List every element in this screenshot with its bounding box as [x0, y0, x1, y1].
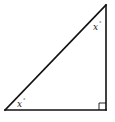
top-angle-variable: x: [93, 22, 98, 32]
bottom-left-angle-degree-symbol: °: [23, 97, 26, 103]
hypotenuse: [5, 5, 106, 110]
top-angle-degree-symbol: °: [99, 20, 102, 26]
top-angle-label: x °: [93, 20, 102, 32]
bottom-left-angle-variable: x: [17, 99, 22, 109]
bottom-left-angle-label: x °: [17, 97, 26, 109]
right-angle-marker: [99, 103, 106, 110]
right-triangle-diagram: x ° x °: [0, 0, 115, 122]
